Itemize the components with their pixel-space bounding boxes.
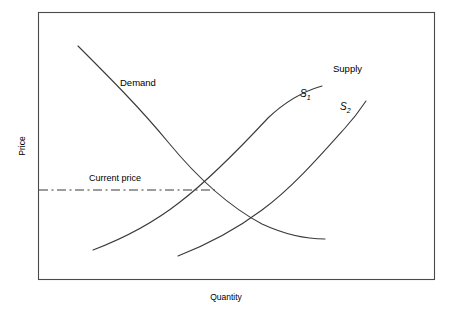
supply-curve-s2 [178, 101, 366, 256]
series-label-s2: S2 [340, 101, 351, 114]
series-label-s1-subscript: 1 [307, 94, 311, 101]
supply-curve-s1 [93, 86, 322, 250]
series-label-s1: S1 [300, 88, 311, 101]
plot-frame [39, 13, 435, 280]
y-axis-label: Price [17, 136, 27, 156]
figure-container: Demand Supply S1 S2 Current price Price … [0, 0, 453, 312]
demand-curve [78, 46, 325, 239]
supply-demand-chart: Demand Supply S1 S2 Current price Price … [0, 0, 453, 312]
demand-label: Demand [120, 77, 156, 88]
x-axis-label: Quantity [210, 292, 242, 302]
current-price-label: Current price [89, 173, 141, 183]
supply-label: Supply [333, 63, 362, 74]
series-label-s2-subscript: 2 [346, 107, 351, 114]
